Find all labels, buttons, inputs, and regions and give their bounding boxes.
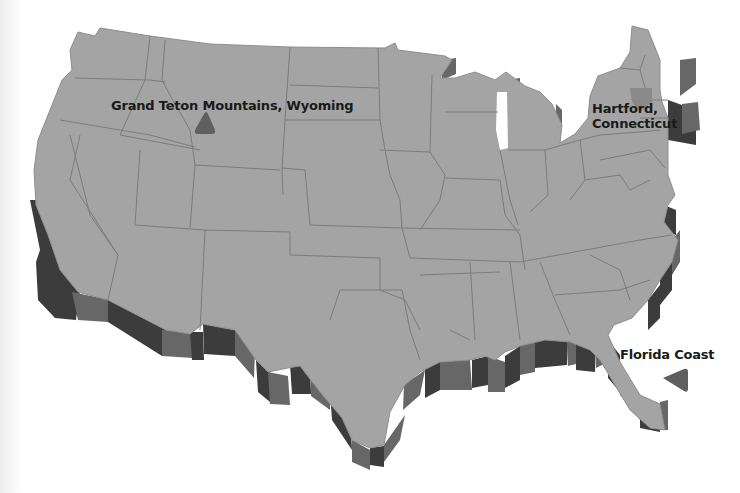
florida-coast-marker-icon[interactable]: [663, 369, 688, 392]
us-landmass: [34, 26, 678, 448]
us-map: [0, 0, 740, 493]
hartford-label-line1: Hartford,: [592, 101, 658, 116]
grand-teton-label: Grand Teton Mountains, Wyoming: [111, 98, 353, 113]
hartford-label-line2: Connecticut: [592, 116, 677, 131]
florida-coast-label: Florida Coast: [620, 347, 714, 362]
